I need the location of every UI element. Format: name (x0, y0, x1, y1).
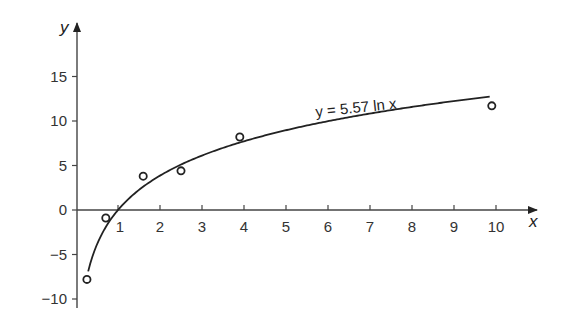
y-tick-label: −10 (42, 290, 67, 307)
data-point (102, 214, 109, 221)
data-point (236, 133, 243, 140)
y-tick-label: 0 (59, 201, 67, 218)
x-tick-label: 4 (240, 218, 248, 235)
x-axis-label: x (528, 212, 538, 231)
chart-canvas: −10−5051015 12345678910 y x y = 5.57 ln … (0, 0, 568, 334)
x-tick-label: 9 (450, 218, 458, 235)
x-tick-label: 10 (488, 218, 505, 235)
y-tick-label: 10 (50, 112, 67, 129)
data-point (488, 102, 495, 109)
x-tick-label: 8 (408, 218, 416, 235)
y-tick-label: 5 (59, 157, 67, 174)
data-point (140, 173, 147, 180)
y-ticks: −10−5051015 (42, 68, 77, 308)
data-point (83, 276, 90, 283)
x-tick-label: 6 (324, 218, 332, 235)
y-tick-label: 15 (50, 68, 67, 85)
x-tick-label: 1 (116, 218, 124, 235)
y-tick-label: −5 (50, 246, 67, 263)
x-tick-label: 7 (366, 218, 374, 235)
y-axis-label: y (59, 18, 70, 37)
x-tick-label: 2 (156, 218, 164, 235)
fit-curve (88, 97, 490, 272)
x-tick-label: 3 (198, 218, 206, 235)
x-tick-label: 5 (282, 218, 290, 235)
data-point (177, 167, 184, 174)
